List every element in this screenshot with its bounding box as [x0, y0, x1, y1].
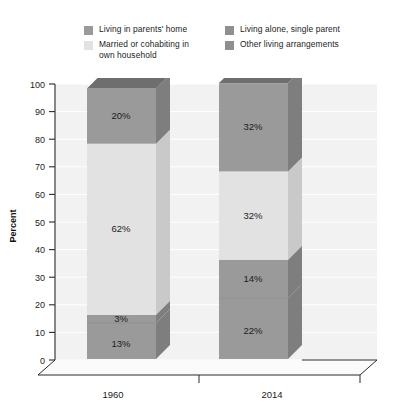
bar-2014-seg-parents-side	[288, 78, 302, 171]
legend-column-right: Living alone, single parent Other living…	[225, 24, 385, 54]
bar-group-2014: 32% 32% 14% 22%	[219, 78, 302, 359]
legend-swatch-parents-home	[84, 26, 93, 35]
bar-1960-label-parents: 20%	[111, 110, 131, 121]
chart-legend: Living in parents' home Married or cohab…	[84, 24, 384, 72]
y-tick-60: 60	[35, 190, 45, 200]
bar-1960-label-other: 13%	[111, 338, 131, 349]
plot-area: 20% 62% 3% 13%	[0, 78, 394, 408]
legend-label-married-cohabiting: Married or cohabiting in own household	[99, 39, 189, 60]
legend-column-left: Living in parents' home Married or cohab…	[84, 24, 214, 64]
legend-item-other-arrangements: Other living arrangements	[225, 39, 385, 50]
y-tick-100: 100	[30, 80, 45, 90]
y-tick-20: 20	[35, 300, 45, 310]
y-tick-10: 10	[35, 328, 45, 338]
bar-1960-label-alone: 3%	[114, 313, 128, 324]
bar-group-1960: 20% 62% 3% 13%	[87, 78, 170, 359]
y-tick-30: 30	[35, 273, 45, 283]
legend-swatch-living-alone	[225, 26, 234, 35]
y-axis-ticks	[49, 84, 55, 360]
bar-2014-label-married: 32%	[243, 210, 263, 221]
legend-item-living-alone: Living alone, single parent	[225, 24, 385, 35]
bar-1960-label-married: 62%	[111, 223, 131, 234]
plot-floor	[38, 360, 377, 375]
y-tick-0: 0	[40, 356, 45, 366]
legend-item-parents-home: Living in parents' home	[84, 24, 214, 35]
legend-item-married-cohabiting: Married or cohabiting in own household	[84, 39, 214, 60]
legend-label-other-arrangements: Other living arrangements	[240, 39, 339, 50]
y-tick-90: 90	[35, 107, 45, 117]
bar-1960-top-cap	[87, 78, 170, 89]
bar-2014-label-other: 22%	[243, 325, 263, 336]
bar-2014-seg-married-side	[288, 157, 302, 259]
y-tick-50: 50	[35, 218, 45, 228]
y-axis-title: Percent	[8, 209, 18, 242]
legend-swatch-married-cohabiting	[84, 41, 93, 50]
legend-label-parents-home: Living in parents' home	[99, 24, 187, 35]
legend-label-living-alone: Living alone, single parent	[240, 24, 340, 35]
y-tick-40: 40	[35, 245, 45, 255]
bar-1960-seg-married-side	[156, 130, 170, 315]
bar-2014-label-alone: 14%	[243, 273, 263, 284]
y-axis-tick-labels: 100 90 80 70 60 50 40 30 20 10 0	[30, 80, 45, 366]
stacked-bar-chart: Living in parents' home Married or cohab…	[0, 0, 394, 408]
legend-swatch-other-arrangements	[225, 41, 234, 50]
x-category-label-1960: 1960	[102, 389, 123, 400]
y-tick-80: 80	[35, 135, 45, 145]
y-tick-70: 70	[35, 162, 45, 172]
x-category-label-2014: 2014	[261, 389, 282, 400]
bar-2014-label-parents: 32%	[243, 121, 263, 132]
